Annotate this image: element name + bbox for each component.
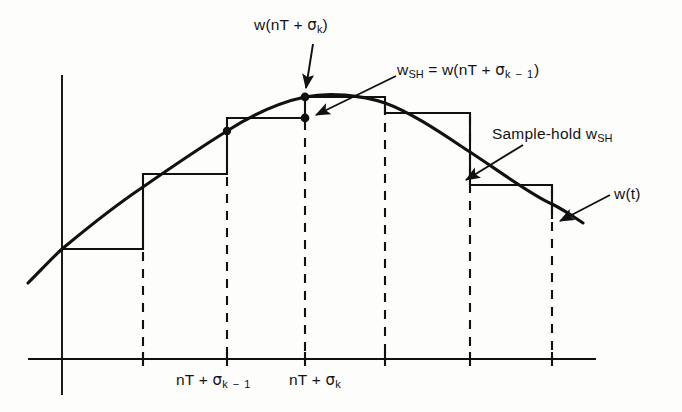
label-peak-sample-post: )	[322, 16, 327, 33]
sigma-glyph: σ	[307, 16, 317, 34]
label-wsh-lhs-sub: SH	[408, 68, 423, 80]
label-tick-k-pre: nT +	[289, 371, 325, 388]
label-wsh-sub: k − 1	[505, 68, 534, 80]
label-wsh-lhs: w	[397, 61, 408, 78]
sample-instant-lines	[143, 106, 552, 355]
sigma-glyph: σ	[325, 371, 335, 389]
arrow-continuous-signal	[560, 195, 610, 221]
sigma-glyph: σ	[495, 61, 505, 79]
label-sample-hold-sub: SH	[597, 132, 612, 144]
sample-dot-peak	[301, 93, 310, 102]
figure-sample-hold-diagram: w(nT + σk) wSH = w(nT + σk − 1) Sample-h…	[0, 0, 682, 412]
axis-group	[28, 75, 596, 395]
label-wt-text: w(t)	[614, 185, 641, 202]
sigma-glyph: σ	[212, 371, 222, 389]
sample-dot-held	[301, 114, 310, 123]
label-sample-hold-value: wSH = w(nT + σk − 1)	[397, 62, 539, 80]
label-sample-hold-text: Sample-hold w	[492, 125, 597, 142]
label-tick-km1-sub: k − 1	[222, 378, 251, 390]
arrow-peak-sample	[306, 44, 313, 88]
diagram-canvas	[0, 0, 682, 412]
label-tick-k-minus-1: nT + σk − 1	[176, 372, 251, 390]
label-tick-km1-pre: nT +	[176, 371, 212, 388]
label-sample-hold-curve: Sample-hold wSH	[492, 126, 612, 144]
arrow-sample-hold-curve	[466, 145, 523, 180]
label-tick-k: nT + σk	[289, 372, 341, 390]
label-peak-sample: w(nT + σk)	[254, 17, 328, 35]
label-wsh-post: )	[534, 61, 539, 78]
label-tick-k-sub: k	[335, 378, 341, 390]
label-wsh-eq: = w(nT +	[424, 61, 496, 78]
sample-dot-k-minus-2	[223, 127, 231, 135]
label-peak-sample-pre: w(nT +	[254, 16, 307, 33]
label-continuous-signal: w(t)	[614, 186, 641, 202]
